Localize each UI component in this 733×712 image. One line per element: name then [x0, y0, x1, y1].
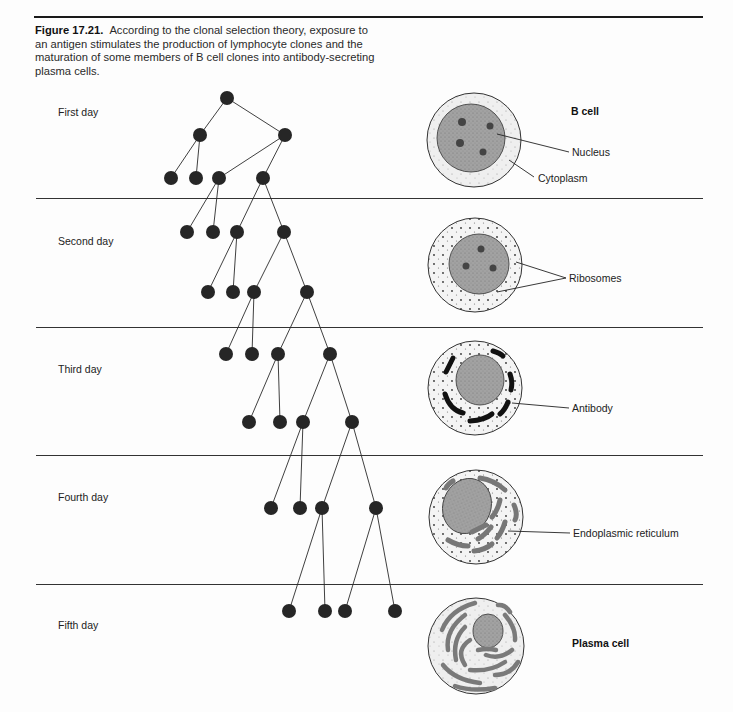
label-plasma-cell: Plasma cell — [572, 637, 629, 649]
lymphocyte-node — [278, 128, 292, 142]
lymphocyte-node — [189, 171, 203, 185]
er-cell-diagram — [429, 470, 570, 564]
lymphocyte-node — [345, 415, 359, 429]
lymphocyte-node — [247, 285, 261, 299]
lymphocyte-node — [271, 347, 285, 361]
ribosome-cell-diagram — [428, 218, 566, 312]
lymphocyte-node — [201, 285, 215, 299]
clonal-expansion-diagram — [0, 0, 733, 712]
label-cytoplasm: Cytoplasm — [538, 172, 588, 184]
lymphocyte-node — [293, 501, 307, 515]
label-b-cell: B cell — [571, 105, 599, 117]
lymphocyte-node — [242, 415, 256, 429]
lymphocyte-node — [282, 604, 296, 618]
lymphocyte-node — [369, 501, 383, 515]
lymphocyte-node — [180, 225, 194, 239]
lymphocyte-node — [193, 128, 207, 142]
lymphocyte-node — [164, 171, 178, 185]
antibody-cell-diagram — [428, 341, 569, 435]
lymphocyte-node — [245, 347, 259, 361]
lymphocyte-node — [206, 225, 220, 239]
label-endoplasmic-reticulum: Endoplasmic reticulum — [573, 527, 679, 539]
lymphocyte-node — [300, 285, 314, 299]
lymphocyte-node — [323, 347, 337, 361]
lymphocyte-node — [256, 171, 270, 185]
lymphocyte-node — [219, 347, 233, 361]
lymphocyte-node — [388, 604, 402, 618]
lymphocyte-node — [226, 285, 240, 299]
lymphocyte-node — [338, 604, 352, 618]
lymphocyte-node — [315, 501, 329, 515]
label-ribosomes: Ribosomes — [569, 272, 622, 284]
lymphocyte-node — [318, 604, 332, 618]
lymphocyte-node — [264, 501, 278, 515]
label-nucleus: Nucleus — [572, 146, 610, 158]
lymphocyte-node — [230, 225, 244, 239]
plasma-cell-diagram — [428, 598, 524, 694]
label-antibody: Antibody — [572, 402, 613, 414]
lymphocyte-node — [273, 415, 287, 429]
lymphocyte-node — [212, 171, 226, 185]
lymphocyte-node — [277, 225, 291, 239]
lymphocyte-node — [220, 91, 234, 105]
lymphocyte-node — [296, 415, 310, 429]
